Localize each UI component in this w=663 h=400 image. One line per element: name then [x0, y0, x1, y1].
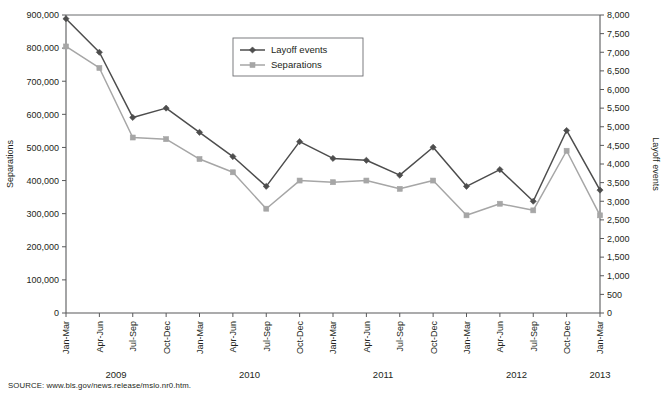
right-axis-title: Layoff events [651, 137, 661, 191]
left-tick-label: 600,000 [26, 110, 59, 120]
right-tick-label: 0 [607, 308, 612, 318]
left-tick-label: 400,000 [26, 176, 59, 186]
right-tick-label: 4,500 [607, 141, 630, 151]
data-point-marker [464, 213, 469, 218]
data-point-marker [297, 178, 302, 183]
x-tick-label: Jan-Mar [328, 321, 338, 354]
legend-label: Separations [271, 59, 322, 70]
data-point-marker [250, 63, 255, 68]
right-tick-label: 1,500 [607, 252, 630, 262]
data-point-marker [130, 135, 135, 140]
x-tick-label: Oct-Dec [295, 321, 305, 355]
x-tick-label: Apr-Jun [228, 321, 238, 353]
right-tick-label: 500 [607, 290, 622, 300]
x-axis-year-label: 2013 [589, 369, 610, 380]
data-point-marker [564, 127, 570, 133]
left-tick-label: 800,000 [26, 43, 59, 53]
x-tick-label: Apr-Jun [362, 321, 372, 353]
x-tick-label: Oct-Dec [562, 321, 572, 355]
data-point-marker [497, 201, 502, 206]
left-axis: 0100,000200,000300,000400,000500,000600,… [5, 10, 66, 318]
data-point-marker [264, 206, 269, 211]
x-tick-label: Jul-Sep [395, 321, 405, 352]
chart-legend: Layoff eventsSeparations [233, 38, 363, 76]
right-tick-label: 5,500 [607, 103, 630, 113]
data-point-marker [397, 186, 402, 191]
left-tick-label: 300,000 [26, 209, 59, 219]
x-axis-year-label: 2010 [239, 369, 260, 380]
right-axis: 05001,0001,5002,0002,5003,0003,5004,0004… [600, 10, 661, 318]
right-tick-label: 5,000 [607, 122, 630, 132]
x-tick-label: Jul-Sep [262, 321, 272, 352]
right-tick-label: 1,000 [607, 271, 630, 281]
data-point-marker [64, 44, 69, 49]
x-tick-label: Oct-Dec [429, 321, 439, 355]
legend-label: Layoff events [271, 44, 328, 55]
data-point-marker [130, 114, 136, 120]
left-tick-label: 200,000 [26, 242, 59, 252]
right-tick-label: 6,000 [607, 85, 630, 95]
x-tick-label: Apr-Jun [95, 321, 105, 353]
right-tick-label: 7,000 [607, 48, 630, 58]
left-tick-label: 0 [54, 308, 59, 318]
data-point-marker [164, 137, 169, 142]
chart-figure: 0100,000200,000300,000400,000500,000600,… [0, 0, 663, 400]
right-tick-label: 2,500 [607, 215, 630, 225]
left-axis-title: Separations [5, 139, 15, 188]
data-point-marker [598, 213, 603, 218]
source-note: SOURCE: www.bls.gov/news.release/mslo.nr… [8, 381, 191, 390]
data-point-marker [97, 65, 102, 70]
x-tick-label: Jul-Sep [529, 321, 539, 352]
x-tick-label: Apr-Jun [495, 321, 505, 353]
right-tick-label: 3,000 [607, 197, 630, 207]
right-tick-label: 4,000 [607, 159, 630, 169]
data-point-marker [331, 180, 336, 185]
x-axis-year-label: 2012 [506, 369, 527, 380]
data-point-marker [197, 157, 202, 162]
right-tick-label: 6,500 [607, 66, 630, 76]
x-tick-label: Jan-Mar [595, 321, 605, 354]
data-point-marker [363, 157, 369, 163]
x-axis: Jan-MarApr-JunJul-SepOct-DecJan-MarApr-J… [61, 313, 610, 380]
right-tick-label: 8,000 [607, 10, 630, 20]
left-tick-label: 100,000 [26, 275, 59, 285]
right-tick-label: 7,500 [607, 29, 630, 39]
data-point-marker [431, 178, 436, 183]
x-tick-label: Jul-Sep [128, 321, 138, 352]
x-axis-year-label: 2011 [373, 369, 393, 380]
data-point-marker [230, 170, 235, 175]
x-tick-label: Jan-Mar [195, 321, 205, 354]
data-point-marker [531, 208, 536, 213]
data-point-marker [364, 178, 369, 183]
data-point-marker [330, 155, 336, 161]
x-tick-label: Jan-Mar [61, 321, 71, 354]
x-tick-label: Jan-Mar [462, 321, 472, 354]
left-tick-label: 900,000 [26, 10, 59, 20]
x-tick-label: Oct-Dec [162, 321, 172, 355]
right-tick-label: 2,000 [607, 234, 630, 244]
x-axis-year-label: 2009 [105, 369, 126, 380]
left-tick-label: 700,000 [26, 77, 59, 87]
left-tick-label: 500,000 [26, 143, 59, 153]
right-tick-label: 3,500 [607, 178, 630, 188]
data-point-marker [597, 187, 603, 193]
data-point-marker [564, 148, 569, 153]
